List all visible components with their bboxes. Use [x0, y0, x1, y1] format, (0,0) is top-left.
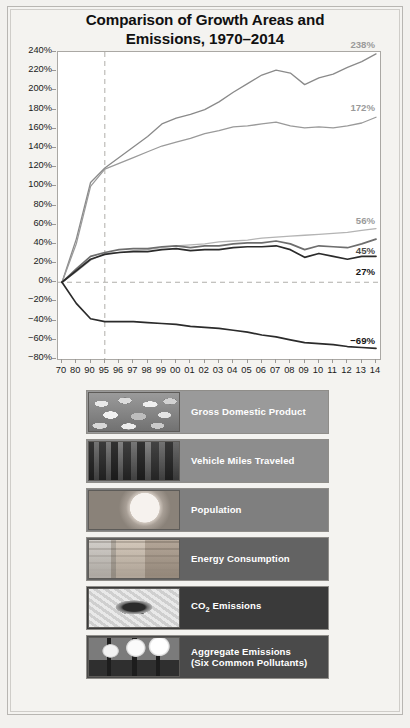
x-axis-tick — [132, 359, 133, 363]
y-axis-tick — [52, 300, 56, 301]
x-axis-tick — [161, 359, 162, 363]
x-axis-tick — [332, 359, 333, 363]
y-axis-tick-label: 20% — [14, 256, 52, 266]
series-end-label: 56% — [335, 215, 375, 226]
legend-item-label-line1: Energy Consumption — [191, 553, 290, 564]
x-axis-tick — [232, 359, 233, 363]
y-axis-tick-label: −80% — [14, 352, 52, 362]
y-axis-tick-label: 160% — [14, 122, 52, 132]
legend-item-label: CO2 Emissions — [180, 600, 328, 615]
legend-item-label-line1: CO2 Emissions — [191, 600, 261, 611]
y-axis-tick-label: 220% — [14, 64, 52, 74]
light-switch-thumbnail-icon — [88, 539, 180, 579]
x-axis-tick — [61, 359, 62, 363]
traffic-thumbnail-icon — [88, 441, 180, 481]
series-end-label: 45% — [335, 245, 375, 256]
legend-item[interactable]: Aggregate Emissions(Six Common Pollutant… — [86, 635, 329, 679]
page-title-line1: Comparison of Growth Areas and — [86, 11, 325, 28]
y-axis-tick-label: 140% — [14, 141, 52, 151]
x-axis-tick — [346, 359, 347, 363]
series-end-label: 27% — [335, 266, 375, 277]
series-end-label: −69% — [335, 335, 375, 346]
baby-thumbnail-icon — [88, 490, 180, 530]
x-axis-tick — [375, 359, 376, 363]
y-axis-tick — [52, 358, 56, 359]
series-line-0 — [62, 54, 376, 282]
y-axis-tick-label: 40% — [14, 237, 52, 247]
y-axis-tick-label: 60% — [14, 218, 52, 228]
legend-item-label-line1: Aggregate Emissions — [191, 646, 291, 657]
legend-item-label-line1: Vehicle Miles Traveled — [191, 455, 295, 466]
y-axis-tick-label: 80% — [14, 199, 52, 209]
y-axis-tick — [52, 224, 56, 225]
y-axis-tick-label: 100% — [14, 179, 52, 189]
legend-item-label: Population — [180, 504, 328, 516]
x-axis-tick — [218, 359, 219, 363]
y-axis-tick-label: −40% — [14, 314, 52, 324]
legend-item[interactable]: Energy Consumption — [86, 537, 329, 581]
legend-item-label: Gross Domestic Product — [180, 406, 328, 418]
legend-item-label: Aggregate Emissions(Six Common Pollutant… — [180, 646, 328, 669]
x-axis-tick — [189, 359, 190, 363]
y-axis-tick-label: −60% — [14, 333, 52, 343]
legend-item-label-line2: (Six Common Pollutants) — [191, 657, 328, 669]
y-axis-tick — [52, 51, 56, 52]
x-axis-tick — [204, 359, 205, 363]
y-axis-tick — [52, 166, 56, 167]
y-axis-tick — [52, 185, 56, 186]
plot-svg — [58, 52, 380, 359]
y-axis-tick — [52, 109, 56, 110]
y-axis-tick-label: 200% — [14, 83, 52, 93]
legend-item[interactable]: Population — [86, 488, 329, 532]
x-axis-tick — [247, 359, 248, 363]
y-axis-tick — [52, 70, 56, 71]
y-axis-tick-label: 180% — [14, 103, 52, 113]
legend-item-label: Energy Consumption — [180, 553, 328, 565]
x-axis-tick — [289, 359, 290, 363]
chart-legend: Gross Domestic ProductVehicle Miles Trav… — [86, 390, 329, 684]
x-axis-tick — [175, 359, 176, 363]
legend-item[interactable]: CO2 Emissions — [86, 586, 329, 630]
y-axis-tick — [52, 262, 56, 263]
x-axis-tick — [118, 359, 119, 363]
y-axis-tick-label: 240% — [14, 45, 52, 55]
smokestacks-thumbnail-icon — [88, 637, 180, 677]
legend-item-label-line1: Gross Domestic Product — [191, 406, 306, 417]
legend-item-label-line1: Population — [191, 504, 242, 515]
y-axis-tick — [52, 281, 56, 282]
legend-item[interactable]: Gross Domestic Product — [86, 390, 329, 434]
series-line-1 — [62, 117, 376, 282]
legend-item-label: Vehicle Miles Traveled — [180, 455, 328, 467]
x-axis-tick — [147, 359, 148, 363]
series-line-5 — [62, 282, 376, 348]
coins-thumbnail-icon — [88, 392, 180, 432]
y-axis-tick-label: 120% — [14, 160, 52, 170]
chart-page: Comparison of Growth Areas and Emissions… — [0, 0, 410, 728]
y-axis-tick — [52, 205, 56, 206]
series-end-label: 238% — [335, 39, 375, 50]
x-axis-tick-label: 14 — [366, 365, 384, 375]
legend-item[interactable]: Vehicle Miles Traveled — [86, 439, 329, 483]
x-axis-tick — [90, 359, 91, 363]
y-axis-tick-label: 0% — [14, 275, 52, 285]
x-axis-tick — [318, 359, 319, 363]
x-axis-tick — [304, 359, 305, 363]
x-axis-tick — [104, 359, 105, 363]
series-line-3 — [62, 239, 376, 282]
x-axis-tick — [261, 359, 262, 363]
line-chart: 240%220%200%180%160%140%120%100%80%60%40… — [14, 46, 396, 384]
series-end-label: 172% — [335, 102, 375, 113]
y-axis-tick — [52, 89, 56, 90]
y-axis-tick — [52, 128, 56, 129]
plot-area — [57, 51, 381, 360]
y-axis-tick — [52, 320, 56, 321]
x-axis-tick — [361, 359, 362, 363]
y-axis-tick — [52, 147, 56, 148]
y-axis-tick — [52, 339, 56, 340]
x-axis-tick — [275, 359, 276, 363]
y-axis-tick-label: −20% — [14, 294, 52, 304]
x-axis-tick — [75, 359, 76, 363]
y-axis-tick — [52, 243, 56, 244]
tailpipe-thumbnail-icon — [88, 588, 180, 628]
